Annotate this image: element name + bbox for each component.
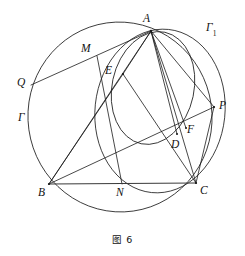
circle-gamma-1 bbox=[87, 23, 233, 200]
vertex-dot-a bbox=[150, 30, 153, 33]
label-circle-gamma-1-subscript: 1 bbox=[213, 29, 217, 38]
label-point-p: P bbox=[219, 100, 226, 112]
label-point-b: B bbox=[38, 187, 45, 199]
label-point-n: N bbox=[116, 187, 124, 199]
segment-be bbox=[49, 74, 123, 184]
label-point-f: F bbox=[187, 124, 194, 136]
vertex-dot-e bbox=[122, 73, 124, 75]
label-point-q: Q bbox=[17, 77, 25, 89]
label-circle-gamma-1: Γ1 bbox=[206, 22, 216, 36]
label-circle-gamma: Γ bbox=[18, 112, 25, 124]
vertex-dot-d bbox=[176, 133, 178, 135]
segment-af bbox=[151, 31, 186, 128]
vertex-dot-b bbox=[48, 183, 50, 185]
vertex-dot-c bbox=[195, 182, 197, 184]
label-point-e: E bbox=[105, 65, 112, 77]
figure-canvas bbox=[0, 0, 245, 256]
label-point-a: A bbox=[143, 13, 150, 25]
label-point-m: M bbox=[81, 43, 91, 55]
vertex-dot-p bbox=[213, 106, 215, 108]
figure-caption: 图 6 bbox=[0, 232, 245, 246]
label-point-d: D bbox=[171, 139, 179, 151]
segment-bc bbox=[49, 183, 196, 184]
segment-pc bbox=[196, 107, 214, 183]
segment-ec bbox=[123, 74, 196, 183]
geometry-figure: A M E Q P F D B N C Γ Γ1 图 6 bbox=[0, 0, 245, 256]
label-circle-gamma-1-base: Γ bbox=[206, 21, 213, 33]
label-point-c: C bbox=[200, 185, 208, 197]
